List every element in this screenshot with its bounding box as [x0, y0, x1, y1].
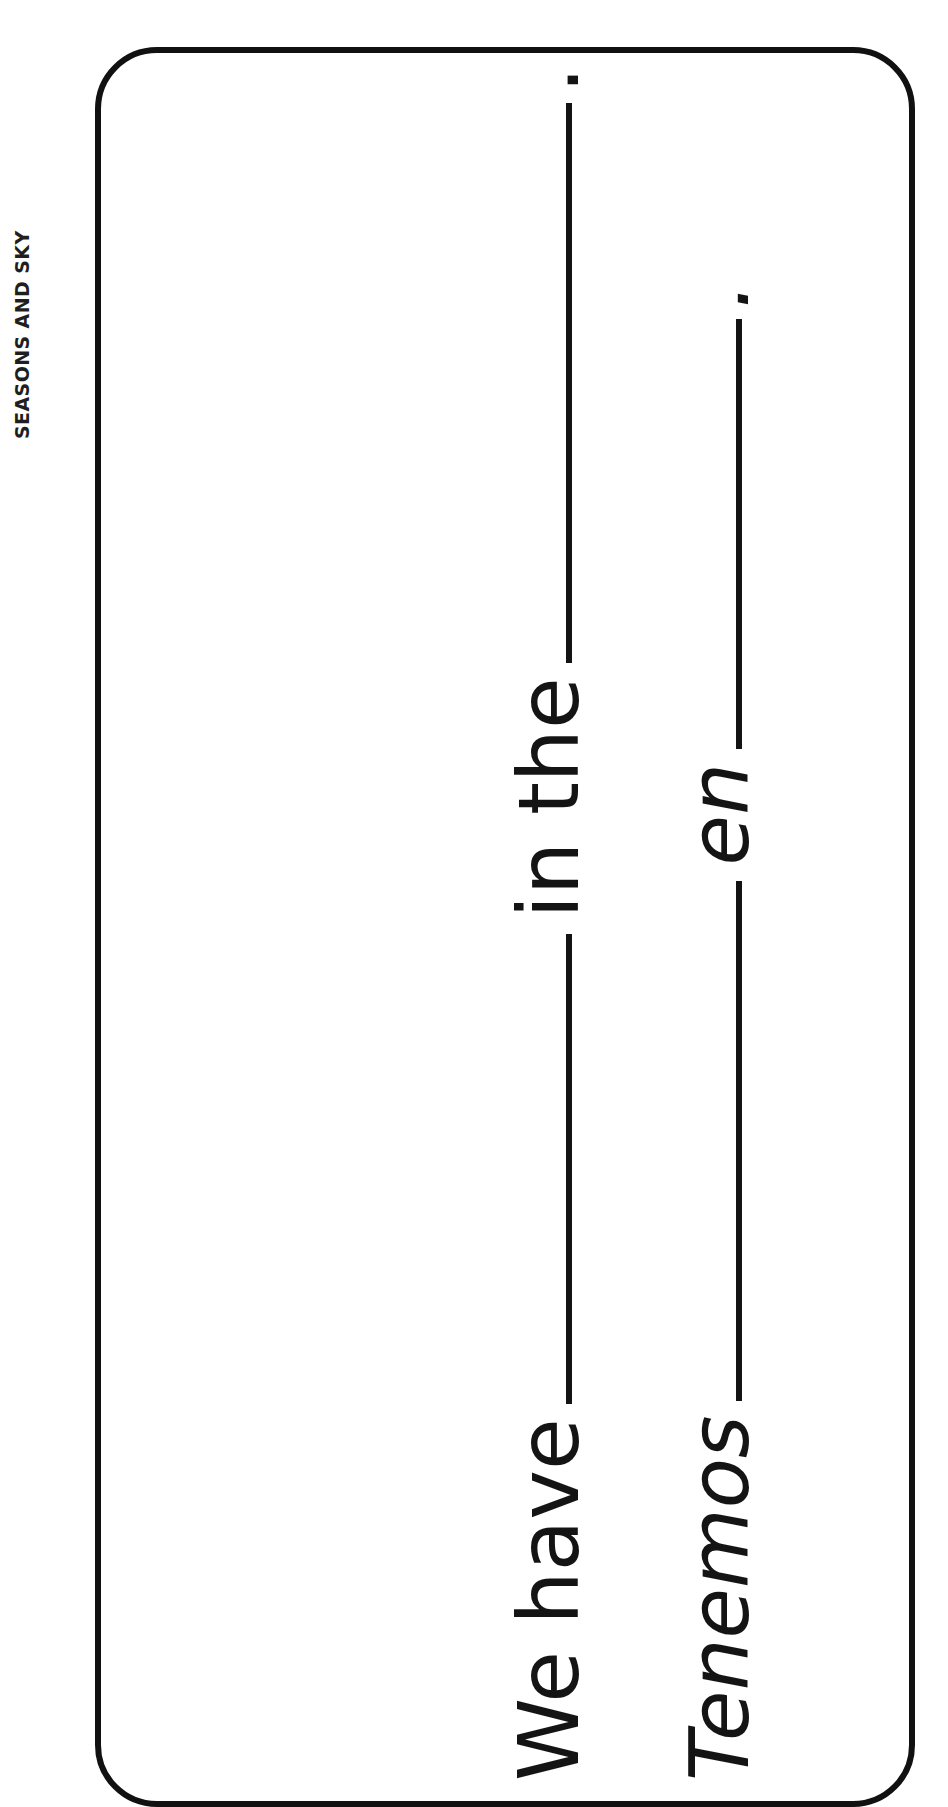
sentence-spanish: Tenemos en . — [677, 283, 763, 1781]
text-tenemos: Tenemos — [677, 1415, 763, 1781]
blank-english-1[interactable] — [565, 934, 572, 1404]
period-spanish: . — [677, 283, 763, 309]
blank-spanish-1[interactable] — [735, 881, 742, 1401]
text-we-have: We have — [505, 1418, 593, 1781]
rotated-content-stage: We have in the . Tenemos en . — [101, 53, 921, 1753]
running-header: SEASONS AND SKY — [0, 0, 40, 470]
blank-english-2[interactable] — [565, 103, 572, 663]
period-english: . — [505, 67, 593, 94]
worksheet-card: We have in the . Tenemos en . — [95, 47, 915, 1807]
text-in-the: in the — [505, 677, 593, 918]
text-en: en — [677, 763, 763, 865]
section-title: SEASONS AND SKY — [11, 9, 33, 439]
sentence-english: We have in the . — [505, 67, 593, 1781]
blank-spanish-2[interactable] — [735, 319, 742, 749]
